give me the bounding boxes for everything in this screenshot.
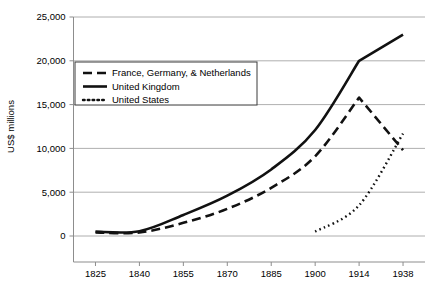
chart-legend: France, Germany, & NetherlandsUnited Kin… [75,62,257,105]
x-tick-label: 1938 [392,268,413,279]
y-axis-ticks: 05,00010,00015,00020,00025,000 [36,11,73,241]
series-line-france-germany-netherlands [95,98,403,234]
y-tick-label: 20,000 [36,55,65,66]
x-tick-label: 1914 [349,268,370,279]
y-tick-label: 10,000 [36,143,65,154]
y-tick-label: 25,000 [36,11,65,22]
y-tick-label: 5,000 [42,187,66,198]
x-tick-label: 1870 [217,268,238,279]
y-tick-label: 15,000 [36,99,65,110]
legend-label: United Kingdom [112,81,180,92]
y-tick-label: 0 [60,230,65,241]
x-tick-label: 1855 [173,268,194,279]
x-tick-label: 1840 [129,268,150,279]
line-chart: 05,00010,00015,00020,00025,000 182518401… [0,0,440,292]
gridlines [74,17,426,236]
x-axis-ticks: 18251840185518701885190019141938 [85,262,414,279]
x-tick-label: 1885 [261,268,282,279]
y-axis-title: US$ millions [5,100,16,153]
legend-label: France, Germany, & Netherlands [112,67,251,78]
x-tick-label: 1825 [85,268,106,279]
x-tick-label: 1900 [305,268,326,279]
chart-container: 05,00010,00015,00020,00025,000 182518401… [0,0,440,292]
legend-label: United States [112,94,169,105]
